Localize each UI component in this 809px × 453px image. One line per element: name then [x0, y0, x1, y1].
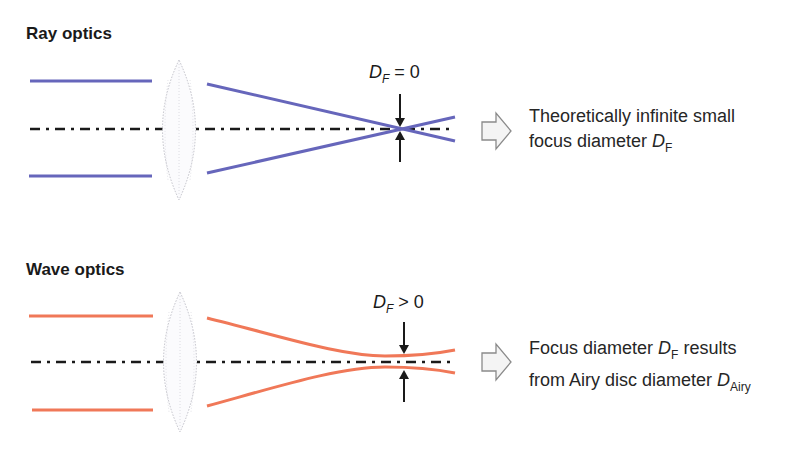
- focus-diameter-label: DF > 0: [373, 292, 424, 316]
- lens-icon: [163, 60, 196, 200]
- wave-optics-caption: Focus diameter DF results from Airy disc…: [529, 336, 751, 400]
- beam-envelope-bottom: [207, 367, 455, 406]
- beam-envelope-top: [207, 318, 455, 356]
- result-arrow-icon: [482, 344, 511, 380]
- converging-ray-top: [207, 84, 455, 141]
- ray-optics-panel: Ray optics DF = 0 Theoretical: [0, 0, 809, 226]
- focus-diameter-label: DF = 0: [369, 62, 420, 86]
- converging-ray-bottom: [207, 117, 455, 173]
- lens-icon: [164, 292, 197, 432]
- result-arrow-icon: [482, 113, 511, 149]
- ray-optics-caption: Theoretically infinite small focus diame…: [529, 104, 735, 161]
- wave-optics-panel: Wave optics DF > 0 Focus diam: [0, 226, 809, 453]
